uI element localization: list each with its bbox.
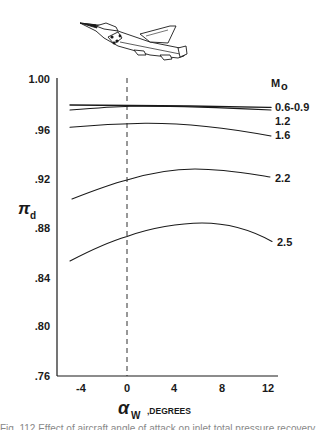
- series-line-2.2: [72, 169, 270, 199]
- series-label: 1.2: [275, 115, 290, 127]
- series-label: 2.5: [277, 236, 292, 248]
- y-axis-title: π d: [18, 199, 36, 221]
- legend-title: M o: [271, 77, 288, 92]
- x-tick-labels: -4 0 4 8 12: [76, 382, 274, 394]
- series-labels: 0.6-0.9 1.2 1.6 2.2 2.5: [275, 101, 309, 248]
- legend-title-main: M: [271, 77, 280, 89]
- y-tick-labels: 1.00 .96 .92 .88 .84 .80 .76: [29, 73, 51, 382]
- chart: 1.00 .96 .92 .88 .84 .80 .76 -4 0 4 8 12…: [0, 0, 326, 430]
- y-tick-label: .88: [35, 222, 50, 234]
- x-tick-label: 12: [262, 382, 274, 394]
- series-line-1.6: [70, 123, 271, 136]
- x-tick-label: 8: [219, 382, 225, 394]
- y-tick-label: .76: [35, 370, 50, 382]
- y-tick-label: .92: [35, 173, 50, 185]
- figure-caption-partial: Fig. 112 Effect of aircraft angle of att…: [0, 422, 326, 430]
- x-tick-label: -4: [76, 382, 87, 394]
- series-label: 0.6-0.9: [275, 101, 309, 113]
- x-tick-label: 4: [171, 382, 178, 394]
- x-axis-subscript: W: [131, 410, 141, 421]
- x-axis-title: α W ,DEGREES: [118, 398, 191, 421]
- aircraft-illustration-icon: [80, 23, 187, 60]
- series-line-2.5: [70, 223, 272, 261]
- x-axis-symbol: α: [118, 398, 130, 418]
- x-tick-label: 0: [124, 382, 130, 394]
- y-tick-label: .80: [35, 320, 50, 332]
- legend-title-sub: o: [281, 80, 288, 92]
- y-axis-subscript: d: [30, 210, 36, 221]
- series-label: 2.2: [275, 172, 290, 184]
- series-label: 1.6: [275, 129, 290, 141]
- y-tick-label: 1.00: [29, 73, 50, 85]
- y-tick-label: .96: [35, 124, 50, 136]
- y-tick-label: .84: [35, 272, 51, 284]
- x-axis-units: ,DEGREES: [147, 406, 191, 416]
